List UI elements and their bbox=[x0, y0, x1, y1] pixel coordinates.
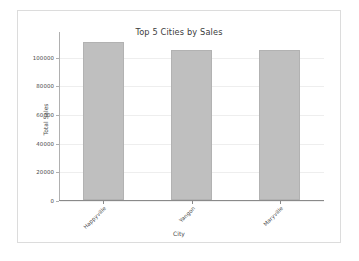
y-tick-label: 40000 bbox=[36, 141, 54, 147]
bar bbox=[171, 50, 212, 200]
screenshot-page: Top 5 Cities by Sales Total Sales 020000… bbox=[0, 0, 359, 261]
plot-area: 020000400006000080000100000 HappyvilleYa… bbox=[59, 32, 324, 201]
y-tick-mark bbox=[56, 86, 59, 87]
y-tick-label: 60000 bbox=[36, 112, 54, 118]
x-tick-mark bbox=[192, 201, 193, 204]
y-tick-mark bbox=[56, 144, 59, 145]
bar bbox=[259, 50, 300, 200]
chart-figure: Top 5 Cities by Sales Total Sales 020000… bbox=[17, 10, 341, 243]
y-axis-label: Total Sales bbox=[42, 104, 49, 136]
y-tick-mark bbox=[56, 58, 59, 59]
y-tick-label: 80000 bbox=[36, 83, 54, 89]
y-tick-label: 100000 bbox=[33, 55, 54, 61]
y-tick-mark bbox=[56, 115, 59, 116]
x-tick-label: Yangon bbox=[149, 205, 196, 252]
x-axis-label: City bbox=[18, 230, 340, 237]
x-tick-mark bbox=[103, 201, 104, 204]
x-tick-label: Maryville bbox=[237, 205, 284, 252]
bar bbox=[83, 42, 124, 200]
y-tick-label: 0 bbox=[50, 198, 54, 204]
y-tick-mark bbox=[56, 201, 59, 202]
x-tick-mark bbox=[280, 201, 281, 204]
y-tick-mark bbox=[56, 172, 59, 173]
x-tick-label: Happyville bbox=[61, 205, 108, 252]
y-tick-label: 20000 bbox=[36, 169, 54, 175]
